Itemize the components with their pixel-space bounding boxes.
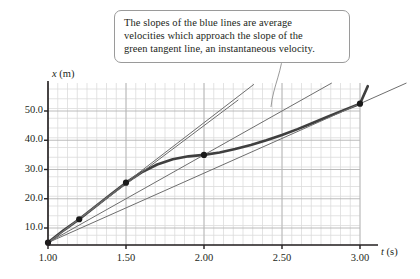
- y-tick-label: 40.0: [13, 133, 43, 144]
- major-gridlines: [48, 83, 360, 245]
- y-tick-label: 50.0: [13, 104, 43, 115]
- figure-canvas: The slopes of the blue lines are average…: [0, 0, 420, 279]
- data-point-p4: [357, 101, 363, 107]
- callout-line-1: The slopes of the blue lines are average: [124, 16, 341, 29]
- x-tick-label: 2.00: [188, 252, 220, 263]
- y-axis-label: x (m): [52, 68, 74, 79]
- x-tick-label: 1.00: [32, 252, 64, 263]
- y-axis-label-unit: (m): [59, 68, 74, 79]
- x-tick-label: 1.50: [110, 252, 142, 263]
- y-tick-label: 10.0: [13, 221, 43, 232]
- y-tick-label: 30.0: [13, 163, 43, 174]
- callout-line-3: green tangent line, an instantaneous vel…: [124, 42, 341, 55]
- x-tick-label: 2.50: [266, 252, 298, 263]
- x-axis-label-unit: (s): [387, 246, 398, 257]
- x-axis-label: t (s): [381, 246, 398, 257]
- y-axis-label-var: x: [52, 68, 57, 79]
- line-secant-line-2: [48, 83, 332, 243]
- x-axis-label-var: t: [381, 246, 384, 257]
- data-point-p3: [201, 152, 207, 158]
- x-tick-label: 3.00: [344, 252, 376, 263]
- y-tick-label: 20.0: [13, 192, 43, 203]
- curve-position: [48, 86, 368, 242]
- line-secant-line-1: [48, 83, 406, 243]
- data-point-p2: [123, 180, 129, 186]
- callout-line-2: velocities which approach the slope of t…: [124, 29, 341, 42]
- series-layer: [48, 83, 406, 243]
- data-point-p1: [76, 216, 82, 222]
- callout-annotation: The slopes of the blue lines are average…: [114, 10, 350, 63]
- line-tangent-line: [48, 100, 238, 243]
